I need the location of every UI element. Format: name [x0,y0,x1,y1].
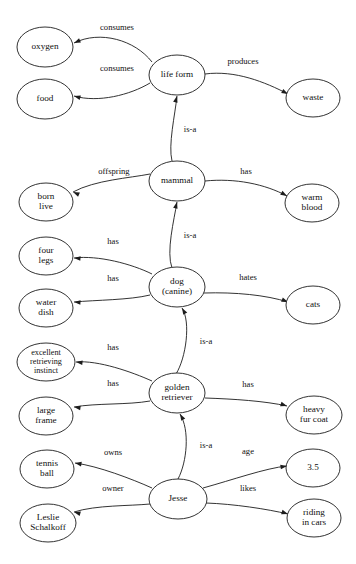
edge-line [74,83,150,99]
edge-label: consumes [100,22,135,32]
edge-jesse-to-leslie: owner [74,483,150,516]
node-label-line: large [37,405,55,415]
edge-line [205,180,287,196]
edge-label: has [107,236,119,246]
edge-golden-to-instinct: has [76,342,152,381]
edge-label: age [242,446,254,456]
edge-line [205,73,288,94]
edge-label: offspring [98,166,130,176]
edge-mammal-to-warm_blood: has [205,166,287,196]
node-label-line: life form [161,69,193,79]
node-label-line: mammal [161,175,194,185]
edge-line [204,293,288,302]
node-leslie[interactable]: LeslieSchalkoff [20,504,76,542]
node-fur_coat[interactable]: heavyfur coat [286,396,342,434]
arrow-head-icon [73,192,80,197]
edge-life_form-to-oxygen: consumes [74,22,152,62]
edge-label: has [107,273,119,283]
edge-label: is-a [184,124,197,134]
edge-label: produces [227,56,259,66]
edge-line [74,37,152,62]
node-warm_blood[interactable]: warmblood [285,184,339,222]
node-label-line: waste [303,92,324,102]
node-label-line: four [38,245,53,255]
node-label-line: warm [302,192,323,202]
edge-label: is-a [184,230,197,240]
edge-label: likes [240,483,257,493]
node-label-line: retrieving [30,357,62,366]
edge-label: has [107,378,119,388]
edge-dog-to-four_legs: has [74,236,152,274]
node-life_form[interactable]: life form [149,55,205,95]
node-cats[interactable]: cats [286,286,340,324]
node-riding[interactable]: ridingin cars [287,499,341,537]
node-food[interactable]: food [17,79,73,119]
arrow-head-icon [281,510,288,514]
node-label-line: instinct [34,366,59,375]
edge-mammal-to-born_live: offspring [73,166,150,197]
edge-dog-to-cats: hates [204,272,288,302]
edge-dog-to-water_dish: has [74,273,150,305]
node-mammal[interactable]: mammal [149,161,205,201]
arrow-head-icon [76,360,83,365]
edge-label: is-a [200,440,213,450]
edge-label: owns [104,447,123,457]
node-label-line: dish [38,307,54,317]
node-label-line: oxygen [31,41,58,51]
node-label-line: cats [306,299,321,309]
edge-line [206,503,288,514]
edge-golden-to-dog: is-a [176,308,212,374]
arrow-head-icon [280,191,287,196]
edge-line [176,308,187,374]
arrow-head-icon [74,512,81,516]
node-four_legs[interactable]: fourlegs [19,237,73,275]
node-waste[interactable]: waste [286,79,340,117]
node-golden[interactable]: goldenretriever [149,373,205,413]
arrow-head-icon [74,256,81,261]
node-label-line: food [37,93,54,103]
edge-label: has [107,342,119,352]
edge-life_form-to-waste: produces [205,56,288,94]
node-label-line: heavy [303,404,325,414]
node-label-line: born [38,191,55,201]
edge-line [171,96,177,161]
node-label-line: blood [302,202,323,212]
edge-label: owner [102,483,124,493]
arrow-head-icon [74,38,81,43]
node-label-line: in cars [302,517,327,527]
arrow-head-icon [280,402,287,406]
edge-label: is-a [200,336,213,346]
node-label-line: fur coat [300,414,329,424]
node-age_value[interactable]: 3.5 [286,449,340,487]
node-label-line: 3.5 [307,462,319,472]
arrow-head-icon [74,300,81,305]
node-dog[interactable]: dog(canine) [149,267,205,307]
node-label-line: Leslie [37,512,59,522]
node-instinct[interactable]: excellentretrievinginstinct [17,343,75,381]
node-label-line: legs [39,255,54,265]
node-label-line: Schalkoff [30,522,66,532]
edge-label: hates [239,272,257,282]
node-label-line: live [39,201,53,211]
edge-label: has [242,379,254,389]
node-tennis_ball[interactable]: tennisball [20,450,74,488]
edge-jesse-to-tennis_ball: owns [75,447,152,488]
node-jesse[interactable]: Jesse [149,479,207,519]
edge-dog-to-mammal: is-a [170,202,197,268]
arrow-head-icon [173,202,177,209]
arrow-head-icon [74,96,81,100]
node-water_dish[interactable]: waterdish [19,289,73,327]
node-label-line: Jesse [169,493,188,503]
node-born_live[interactable]: bornlive [19,183,73,221]
edge-life_form-to-food: consumes [74,63,150,100]
edge-line [74,401,150,407]
edge-jesse-to-golden: is-a [178,414,212,479]
node-oxygen[interactable]: oxygen [17,27,73,67]
edge-label: consumes [100,63,135,73]
node-label-line: dog [170,276,184,286]
nodes-layer: oxygenfoodlife formwastemammalbornlivewa… [17,27,342,542]
arrow-head-icon [75,462,82,467]
node-label-line: retriever [161,392,192,402]
node-large_frame[interactable]: largeframe [19,397,73,435]
edge-line [170,202,177,268]
